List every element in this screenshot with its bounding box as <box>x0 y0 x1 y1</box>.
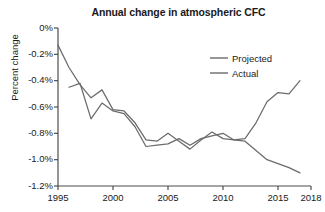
legend-swatches <box>210 58 228 73</box>
series-line-actual <box>69 83 300 173</box>
legend-label-actual: Actual <box>232 68 258 79</box>
data-series-group <box>58 45 300 173</box>
chart-figure: Annual change in atmospheric CFC Percent… <box>0 0 325 212</box>
legend-label-projected: Projected <box>232 53 272 64</box>
plot-area <box>0 0 325 212</box>
x-axis-ticks <box>58 186 311 190</box>
